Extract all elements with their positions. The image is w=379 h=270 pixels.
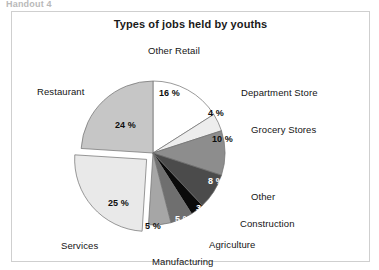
pie-slice-category-label: Services [61,240,98,251]
pie-slice-category-label: Agriculture [209,239,256,250]
pie-slice-category-label: Other Retail [148,45,200,56]
pie-slice-value-label: 25 % [108,198,129,208]
pie-slice-category-label: Department Store [241,87,318,98]
pie-slice-value-label: 24 % [115,120,136,130]
pie-slice[interactable] [75,155,147,231]
pie-slice-category-label: Grocery Stores [251,124,316,135]
pie-slice-category-label: Other [251,191,275,202]
pie-slice-value-label: 5 % [145,221,161,231]
pie-slice-value-label: 16 % [159,88,180,98]
pie-slice-category-label: Construction [240,218,295,229]
pie-slice-value-label: 3 % [196,203,212,213]
pie-slice[interactable] [81,81,153,153]
scan-header-fragment: Handout 4 [6,0,126,7]
pie-slice-value-label: 5 % [175,214,191,224]
pie-slice-value-label: 8 % [208,176,224,186]
pie-slice-category-label: Restaurant [37,86,84,97]
pie-chart: 16 %Other Retail4 %Department Store10 %G… [12,12,371,263]
chart-frame: Types of jobs held by youths 16 %Other R… [11,11,370,262]
pie-slice-value-label: 10 % [212,134,233,144]
pie-slice-category-label: Manufacturing [152,256,214,267]
pie-slice-value-label: 4 % [208,108,224,118]
